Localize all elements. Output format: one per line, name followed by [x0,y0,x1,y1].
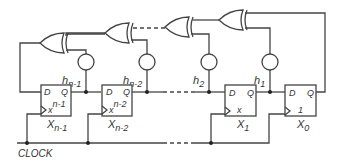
clock-label: CLOCK [18,148,54,159]
svg-text:X1: X1 [236,118,249,133]
svg-text:Xn-2: Xn-2 [107,118,128,133]
clock-wire-x-n-2 [88,114,102,143]
svg-text:D: D [106,87,113,97]
flip-flop-x-1: D Q x X1 [225,85,256,133]
svg-text:Xn-1: Xn-1 [46,118,67,133]
svg-text:D: D [229,88,236,98]
svg-text:X0: X0 [296,118,309,133]
clock-wire-x-n-1 [27,114,41,143]
junction-dot [84,90,88,94]
xor-gate-2 [105,23,133,43]
xor-gate-1 [40,33,68,53]
junction-dot [25,141,29,145]
lfsr-circuit-diagram: hn-1 hn-2 h2 h1 D Q xn-1 Xn-1 D Q xn-2 X… [0,0,340,164]
clock-wire-x1 [211,114,225,143]
tap-label-h-2: h2 [193,74,204,89]
svg-text:Q: Q [307,88,314,98]
svg-text:D: D [289,88,296,98]
junction-dot [145,90,149,94]
svg-text:x: x [236,105,242,115]
flip-flop-x-n-2: D Q xn-2 Xn-2 [102,85,132,133]
junction-dot [86,141,90,145]
junction-dot [209,141,213,145]
flip-flop-x-0: D Q 1 X0 [285,85,316,133]
xor-gate-3 [165,17,193,37]
svg-text:Q: Q [247,88,254,98]
junction-dot [207,90,211,94]
svg-text:1: 1 [298,105,303,115]
svg-text:Q: Q [123,87,130,97]
svg-text:D: D [44,87,51,97]
flip-flop-x-n-1: D Q xn-1 Xn-1 [41,85,71,133]
junction-dot [268,90,272,94]
xor-gate-4 [219,10,247,30]
svg-text:Q: Q [61,87,68,97]
feedback-wire-to-d [20,43,42,92]
